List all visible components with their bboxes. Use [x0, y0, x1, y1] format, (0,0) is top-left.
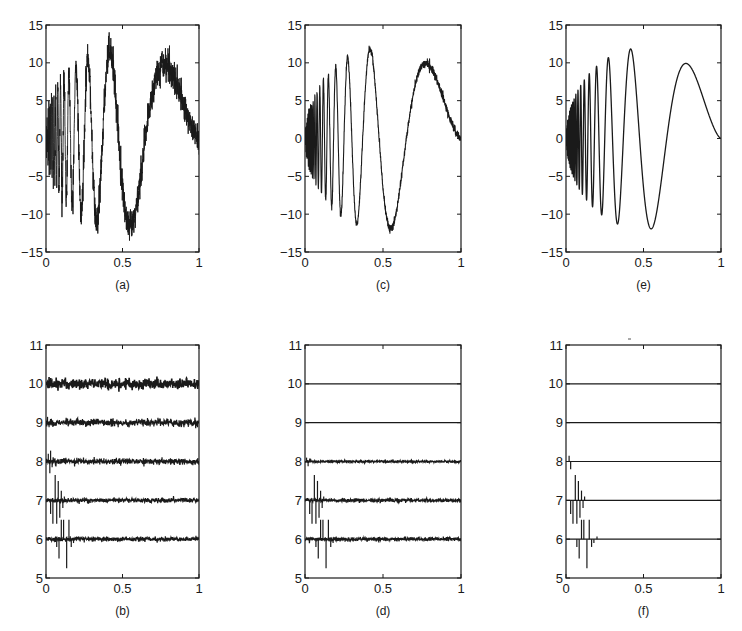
signal-line [305, 46, 461, 233]
x-tick-label: 0.5 [113, 255, 131, 270]
x-tick-label: 1 [457, 255, 464, 270]
x-tick-label: 0.5 [374, 581, 392, 596]
x-tick-label: 0.5 [374, 255, 392, 270]
y-tick-label: 11 [289, 338, 303, 353]
y-tick-label: 15 [29, 18, 43, 33]
y-tick-label: 9 [556, 415, 563, 430]
axes-box [46, 25, 199, 252]
y-tick-label: 9 [295, 415, 302, 430]
y-tick-label: −10 [280, 207, 302, 222]
panel-d-partial-coefficients: 56789101100.51(d) [288, 338, 465, 619]
coefficient-level-line [305, 460, 461, 464]
x-tick-label: 0.5 [634, 255, 652, 270]
x-tick-label: 0.5 [634, 581, 652, 596]
x-tick-label: 0 [301, 255, 308, 270]
y-tick-label: 7 [36, 493, 43, 508]
coefficient-level-line [46, 457, 199, 466]
y-tick-label: 8 [295, 454, 302, 469]
panel-caption: (a) [115, 278, 130, 292]
y-tick-label: 15 [288, 18, 302, 33]
signal-line [46, 32, 199, 240]
x-tick-label: 0 [42, 255, 49, 270]
x-tick-label: 0 [301, 581, 308, 596]
panel-e-smooth-signal: −15−10−505101500.51(e) [541, 18, 725, 293]
panel-f-thresholded-coefficients: 56789101100.51(f) [549, 338, 725, 619]
panel-b-noisy-coefficients: 56789101100.51(b) [29, 338, 203, 619]
coefficient-level-line [46, 418, 199, 429]
y-tick-label: −5 [28, 169, 43, 184]
figure-canvas: −15−10−505101500.51(a) −15−10−505101500.… [0, 0, 742, 631]
y-tick-label: 10 [29, 376, 43, 391]
panel-caption: (e) [636, 278, 651, 292]
plot-area [566, 384, 721, 568]
y-tick-label: −15 [541, 245, 563, 260]
y-tick-label: 11 [30, 338, 44, 353]
y-tick-label: −15 [280, 245, 302, 260]
y-tick-label: 9 [36, 415, 43, 430]
panel-caption: (b) [115, 604, 130, 618]
y-tick-label: 6 [36, 532, 43, 547]
y-tick-label: 11 [550, 338, 564, 353]
x-tick-label: 0 [562, 581, 569, 596]
y-tick-label: 6 [295, 532, 302, 547]
y-tick-label: −10 [21, 207, 43, 222]
y-tick-label: 10 [549, 376, 563, 391]
y-tick-label: 10 [549, 55, 563, 70]
panel-c-denoised-signal: −15−10−505101500.51(c) [280, 18, 465, 293]
plot-area [566, 49, 721, 229]
panel-caption: (c) [376, 278, 390, 292]
plot-area [305, 46, 461, 233]
x-tick-label: 0 [42, 581, 49, 596]
y-tick-label: 10 [288, 376, 302, 391]
x-tick-label: 1 [717, 255, 724, 270]
plot-area [305, 384, 461, 568]
coefficient-level-line [46, 496, 199, 504]
y-tick-label: 5 [556, 93, 563, 108]
x-tick-label: 0.5 [113, 581, 131, 596]
x-tick-label: 1 [195, 581, 202, 596]
y-tick-label: −10 [541, 207, 563, 222]
y-tick-label: 8 [36, 454, 43, 469]
axes-box [566, 25, 721, 252]
panel-caption: (d) [376, 604, 391, 618]
y-tick-label: 7 [556, 493, 563, 508]
coefficient-level-line [305, 497, 461, 503]
x-tick-label: 1 [195, 255, 202, 270]
y-tick-label: 5 [295, 93, 302, 108]
x-tick-label: 1 [457, 581, 464, 596]
y-tick-label: 7 [295, 493, 302, 508]
y-tick-label: 15 [549, 18, 563, 33]
panel-caption: (f) [638, 604, 649, 618]
axes-box [305, 25, 461, 252]
y-tick-label: 0 [556, 131, 563, 146]
y-tick-label: −15 [21, 245, 43, 260]
y-tick-label: 6 [556, 532, 563, 547]
x-tick-label: 0 [562, 255, 569, 270]
coefficient-level-line [46, 377, 199, 392]
x-tick-label: 1 [717, 581, 724, 596]
y-tick-label: 10 [288, 55, 302, 70]
signal-line [566, 49, 721, 229]
y-tick-label: 0 [295, 131, 302, 146]
plot-area [46, 377, 199, 569]
y-tick-label: −5 [287, 169, 302, 184]
y-tick-label: 0 [36, 131, 43, 146]
y-tick-label: 5 [36, 93, 43, 108]
plot-area [46, 32, 199, 240]
y-tick-label: −5 [548, 169, 563, 184]
panel-a-noisy-signal: −15−10−505101500.51(a) [21, 18, 203, 293]
y-tick-label: 8 [556, 454, 563, 469]
y-tick-label: 10 [29, 55, 43, 70]
